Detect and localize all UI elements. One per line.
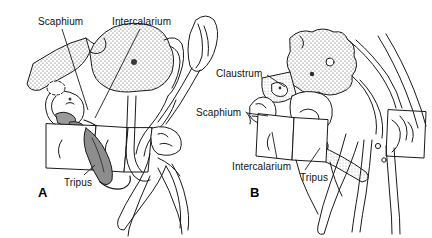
- label-scaphium-b: Scaphium: [196, 107, 241, 118]
- panel-label-b: B: [250, 185, 259, 200]
- panel-a-drawing: [27, 16, 218, 236]
- label-claustrum-b: Claustrum: [216, 68, 262, 79]
- label-tripus-b: Tripus: [300, 172, 328, 183]
- neural-complex-b: [287, 29, 357, 95]
- vertebral-centrum-b3: [386, 110, 426, 158]
- panel-b-drawing: [246, 29, 426, 234]
- vertebral-centrum-b1: [256, 114, 294, 160]
- vertebral-centrum-b2: [292, 118, 328, 162]
- figure-weberian-apparatus: Scaphium Intercalarium Tripus A Claustru…: [0, 0, 432, 238]
- supraneural-plate-a: [90, 23, 174, 92]
- label-intercalarium-b: Intercalarium: [232, 161, 291, 172]
- lower-bone-a1: [151, 127, 181, 156]
- panel-label-a: A: [38, 185, 47, 200]
- pleural-rib-b3: [386, 146, 392, 234]
- neural-arch-b: [348, 40, 396, 108]
- label-intercalarium-a: Intercalarium: [112, 16, 171, 27]
- anatomical-line-drawing: [0, 0, 432, 238]
- label-scaphium-a: Scaphium: [38, 16, 83, 27]
- label-tripus-a: Tripus: [64, 177, 92, 188]
